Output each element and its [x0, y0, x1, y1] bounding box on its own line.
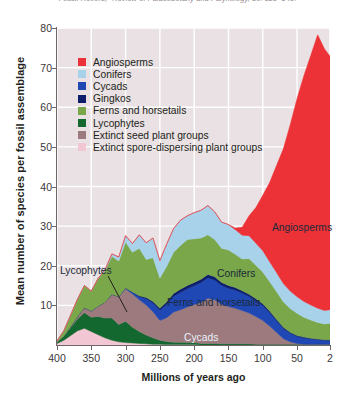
y-tick-label: 30: [6, 221, 52, 231]
x-tick-label: 2: [310, 352, 350, 364]
legend-item[interactable]: Extinct seed plant groups: [78, 129, 262, 141]
x-tick-mark: [228, 346, 229, 350]
annotation-conifers: Conifers: [217, 268, 255, 279]
legend-item[interactable]: Gingkos: [78, 93, 262, 105]
y-axis-ticks: 1020304050607080: [0, 0, 52, 400]
legend-item-label: Angiosperms: [93, 57, 153, 68]
legend-swatch-icon: [78, 107, 86, 115]
legend-item-label: Gingkos: [93, 93, 131, 104]
legend-item-label: Lycophytes: [93, 118, 145, 129]
legend-item[interactable]: Extinct spore-dispersing plant groups: [78, 141, 262, 153]
y-tick-label: 80: [6, 23, 52, 33]
x-tick-mark: [330, 346, 331, 350]
x-axis-label: Millions of years ago: [57, 371, 330, 383]
y-tick-mark: [52, 187, 57, 188]
legend-item-label: Ferns and horsetails: [93, 105, 186, 116]
x-tick-mark: [263, 346, 264, 350]
y-tick-label: 60: [6, 102, 52, 112]
y-axis-label: Mean number of species per fossil assemb…: [14, 56, 26, 306]
legend-swatch-icon: [78, 95, 86, 103]
legend-item[interactable]: Angiosperms: [78, 56, 262, 68]
legend-swatch-icon: [78, 131, 86, 139]
legend-swatch-icon: [78, 58, 86, 66]
legend-swatch-icon: [78, 70, 86, 78]
legend-item[interactable]: Conifers: [78, 68, 262, 80]
x-tick-mark: [126, 346, 127, 350]
legend-item[interactable]: Ferns and horsetails: [78, 105, 262, 117]
y-tick-label: 10: [6, 300, 52, 310]
legend-swatch-icon: [78, 119, 86, 127]
y-tick-mark: [52, 147, 57, 148]
y-tick-label: 20: [6, 261, 52, 271]
legend-item-label: Extinct seed plant groups: [93, 130, 209, 141]
stacked-area-chart: 1020304050607080 40035030025020015010050…: [0, 0, 355, 400]
legend-swatch-icon: [78, 82, 86, 90]
x-tick-mark: [57, 346, 58, 350]
x-tick-mark: [297, 346, 298, 350]
annotation-cycads: Cycads: [184, 332, 218, 343]
x-tick-mark: [91, 346, 92, 350]
y-tick-mark: [52, 28, 57, 29]
annotation-ferns-and-horsetails: Ferns and horsetails: [167, 297, 260, 308]
y-tick-mark: [52, 266, 57, 267]
y-tick-label: 50: [6, 142, 52, 152]
legend-item-label: Conifers: [93, 69, 131, 80]
legend-item[interactable]: Cycads: [78, 80, 262, 92]
annotation-lycophytes: Lycophytes: [60, 265, 112, 276]
y-tick-label: 70: [6, 63, 52, 73]
legend-item[interactable]: Lycophytes: [78, 117, 262, 129]
chart-legend: AngiospermsConifersCycadsGingkosFerns an…: [78, 56, 262, 154]
y-tick-mark: [52, 107, 57, 108]
legend-item-label: Extinct spore-dispersing plant groups: [93, 142, 262, 153]
legend-swatch-icon: [78, 143, 86, 151]
legend-item-label: Cycads: [93, 81, 127, 92]
annotation-angiosperms: Angiosperms: [272, 222, 332, 233]
y-tick-mark: [52, 68, 57, 69]
y-tick-mark: [52, 305, 57, 306]
y-tick-mark: [52, 226, 57, 227]
x-tick-mark: [160, 346, 161, 350]
y-tick-label: 40: [6, 182, 52, 192]
x-tick-mark: [194, 346, 195, 350]
